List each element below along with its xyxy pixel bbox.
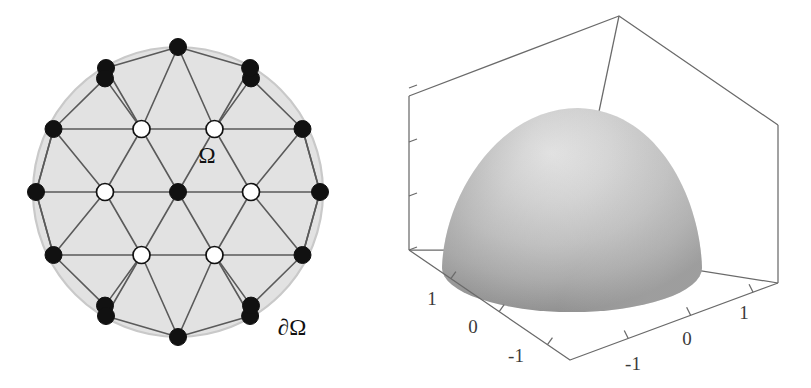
boundary-node-filled — [242, 60, 259, 77]
boundary-node-filled — [97, 70, 114, 87]
boundary-node-filled — [294, 247, 311, 264]
y-tick-label: 0 — [682, 328, 692, 349]
domain-omega-label: Ω — [198, 143, 215, 168]
x-tick-label: 1 — [427, 288, 437, 309]
z-tick-mark — [409, 193, 417, 196]
x-tick-label: -1 — [508, 345, 524, 366]
y-tick-label: 1 — [739, 302, 749, 323]
boundary-node-filled — [45, 247, 62, 264]
interior-node-filled — [170, 184, 187, 201]
y-tick-mark — [687, 307, 691, 315]
surface-plot: 012310-1-101 — [400, 0, 811, 388]
y-tick-mark — [749, 284, 753, 292]
x-tick-mark — [547, 338, 552, 345]
interior-node-open — [133, 247, 150, 264]
boundary-node-filled — [45, 121, 62, 138]
dome-surface — [442, 108, 702, 312]
interior-node-open — [97, 184, 114, 201]
mesh-panel: Ω ∂Ω — [0, 0, 400, 388]
y-tick-label: -1 — [625, 353, 641, 374]
boundary-node-filled — [98, 308, 115, 325]
boundary-node-filled — [243, 297, 260, 314]
interior-node-open — [206, 121, 223, 138]
boundary-domega-label: ∂Ω — [278, 315, 306, 340]
x-tick-label: 0 — [468, 316, 478, 337]
boundary-node-filled — [294, 121, 311, 138]
mesh-diagram: Ω ∂Ω — [0, 0, 400, 388]
boundary-node-filled — [170, 329, 187, 346]
surface-panel: 012310-1-101 — [400, 0, 811, 388]
x-tick-mark — [499, 305, 504, 312]
boundary-node-filled — [312, 184, 329, 201]
z-tick-mark — [409, 85, 417, 88]
interior-node-open — [206, 247, 223, 264]
boundary-node-filled — [170, 39, 187, 56]
interior-node-open — [243, 184, 260, 201]
y-tick-mark — [624, 330, 628, 338]
z-tick-mark — [409, 139, 417, 142]
boundary-node-filled — [28, 184, 45, 201]
figure-container: Ω ∂Ω — [0, 0, 811, 388]
interior-node-open — [133, 121, 150, 138]
